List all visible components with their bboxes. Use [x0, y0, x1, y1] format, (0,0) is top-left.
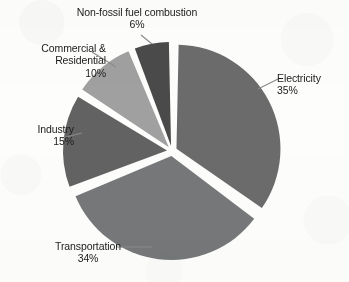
slice-label-non-fossil-fuel-combustion: Non-fossil fuel combustion 6%	[57, 6, 217, 31]
slice-label-commercial-residential-name-1: Commercial &	[2, 42, 106, 54]
slice-label-commercial-residential-value: 10%	[2, 67, 106, 79]
slice-label-electricity-name: Electricity	[277, 72, 347, 84]
leader-line-electricity	[258, 79, 278, 89]
slice-label-electricity: Electricity 35%	[277, 72, 347, 97]
slice-label-industry-name: Industry	[2, 123, 74, 135]
slice-label-industry-value: 15%	[2, 135, 74, 147]
slice-label-transportation-name: Transportation	[32, 240, 144, 252]
slice-label-transportation-value: 34%	[32, 252, 144, 264]
slice-label-transportation: Transportation 34%	[32, 240, 144, 265]
slice-label-non-fossil-fuel-combustion-value: 6%	[57, 18, 217, 30]
slice-label-commercial-residential: Commercial & Residential 10%	[2, 42, 106, 79]
leader-line-non-fossil-fuel-combustion	[141, 35, 152, 44]
slice-label-industry: Industry 15%	[2, 123, 74, 148]
pie-chart-figure: Non-fossil fuel combustion 6% Commercial…	[0, 0, 349, 282]
slice-label-electricity-value: 35%	[277, 84, 347, 96]
slice-label-commercial-residential-name-2: Residential	[2, 54, 106, 66]
slice-label-non-fossil-fuel-combustion-name: Non-fossil fuel combustion	[57, 6, 217, 18]
